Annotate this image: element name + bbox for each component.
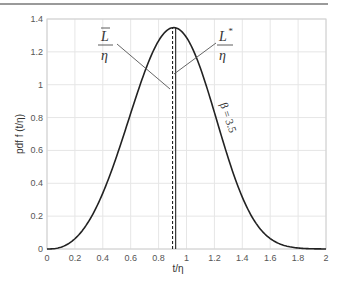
y-tick-label: 1 [38, 80, 43, 90]
x-tick-label: 1.6 [264, 253, 277, 263]
y-tick-label: 1.2 [30, 47, 43, 57]
weibull-pdf-chart: 00.20.40.60.811.21.4 00.20.40.60.811.21.… [0, 0, 342, 287]
svg-text:η: η [219, 48, 226, 63]
x-tick-label: 0.8 [152, 253, 165, 263]
x-axis-label: t/η [172, 263, 183, 274]
y-tick-label: 0.6 [30, 145, 43, 155]
svg-text:L: L [100, 29, 109, 44]
lstar-pointer [174, 43, 216, 74]
x-tick-label: 0.6 [124, 253, 137, 263]
grid [47, 19, 326, 249]
x-tick-label: 1 [184, 253, 189, 263]
svg-text:*: * [228, 26, 233, 36]
x-tick-label: 2 [323, 253, 328, 263]
y-tick-label: 0.8 [30, 113, 43, 123]
lbar-label: L η [98, 28, 113, 63]
lbar-pointer [117, 44, 170, 89]
x-tick-label: 0.2 [69, 253, 82, 263]
y-tick-label: 0 [38, 244, 43, 254]
y-tick-label: 0.4 [30, 178, 43, 188]
lstar-label: L * η [217, 26, 233, 63]
y-axis-label: pdf f (t/η) [14, 114, 25, 154]
x-tick-label: 1.4 [236, 253, 249, 263]
y-tick-label: 1.4 [30, 14, 43, 24]
y-tick-labels: 00.20.40.60.811.21.4 [30, 14, 43, 254]
svg-text:L: L [218, 29, 227, 44]
svg-text:η: η [101, 48, 108, 63]
x-tick-label: 1.8 [292, 253, 305, 263]
x-tick-labels: 00.20.40.60.811.21.41.61.82 [44, 253, 328, 263]
x-tick-label: 0.4 [97, 253, 110, 263]
y-tick-label: 0.2 [30, 211, 43, 221]
x-tick-label: 0 [44, 253, 49, 263]
x-tick-label: 1.2 [208, 253, 221, 263]
